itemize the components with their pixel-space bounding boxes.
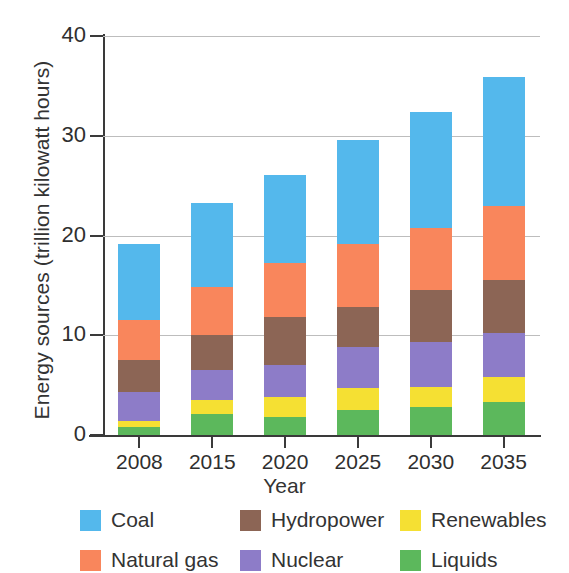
x-tick-mark — [211, 437, 213, 448]
x-tick-mark — [357, 437, 359, 448]
bar-segment-natural-gas — [410, 228, 452, 291]
x-axis-title: Year — [0, 474, 569, 498]
bar-segment-liquids — [264, 417, 306, 435]
stacked-bar-chart: Energy sources (trillion kilowatt hours)… — [0, 0, 569, 573]
y-tick-label: 0 — [38, 421, 86, 447]
legend-label: Natural gas — [111, 548, 218, 572]
bar-segment-coal — [337, 140, 379, 244]
bar-segment-coal — [410, 112, 452, 228]
bar-segment-nuclear — [337, 347, 379, 388]
bar-2020 — [264, 175, 306, 435]
x-tick-label: 2030 — [391, 450, 471, 474]
plot-area — [103, 36, 540, 435]
legend-item-coal[interactable]: Coal — [80, 508, 240, 532]
x-tick-label: 2008 — [99, 450, 179, 474]
bar-segment-renewables — [264, 397, 306, 417]
bar-segment-nuclear — [191, 370, 233, 400]
bar-segment-hydropower — [483, 280, 525, 333]
x-axis-line — [89, 435, 541, 437]
bar-segment-natural-gas — [264, 263, 306, 317]
bar-2035 — [483, 77, 525, 435]
x-tick-label: 2020 — [245, 450, 325, 474]
bar-2008 — [118, 244, 160, 435]
bar-segment-natural-gas — [337, 244, 379, 308]
bar-segment-liquids — [191, 414, 233, 435]
bar-segment-renewables — [191, 400, 233, 414]
legend-swatch-icon — [240, 510, 261, 531]
legend-swatch-icon — [240, 550, 261, 571]
x-tick-label: 2015 — [172, 450, 252, 474]
bar-segment-nuclear — [118, 392, 160, 421]
bar-segment-renewables — [337, 388, 379, 410]
bar-segment-natural-gas — [191, 287, 233, 335]
bar-segment-coal — [264, 175, 306, 264]
legend-swatch-icon — [400, 550, 421, 571]
legend-label: Hydropower — [271, 508, 384, 532]
bar-segment-nuclear — [264, 365, 306, 397]
bar-segment-hydropower — [337, 307, 379, 347]
bar-segment-natural-gas — [483, 206, 525, 281]
legend-label: Renewables — [431, 508, 547, 532]
x-tick-mark — [284, 437, 286, 448]
legend-label: Liquids — [431, 548, 498, 572]
legend-item-renewables[interactable]: Renewables — [400, 508, 550, 532]
legend-item-liquids[interactable]: Liquids — [400, 548, 550, 572]
bar-segment-renewables — [410, 387, 452, 407]
bar-segment-hydropower — [264, 317, 306, 365]
bar-segment-natural-gas — [118, 320, 160, 360]
legend-item-hydropower[interactable]: Hydropower — [240, 508, 400, 532]
legend-label: Nuclear — [271, 548, 343, 572]
y-tick-label: 10 — [38, 321, 86, 347]
y-tick-label: 40 — [38, 22, 86, 48]
bar-segment-liquids — [483, 402, 525, 435]
legend-swatch-icon — [80, 550, 101, 571]
bar-segment-hydropower — [118, 360, 160, 392]
bar-2015 — [191, 203, 233, 435]
legend-item-nuclear[interactable]: Nuclear — [240, 548, 400, 572]
x-tick-mark — [138, 437, 140, 448]
bar-segment-nuclear — [410, 342, 452, 387]
legend-item-natural-gas[interactable]: Natural gas — [80, 548, 240, 572]
bar-segment-liquids — [118, 427, 160, 435]
bar-segment-liquids — [337, 410, 379, 435]
bar-segment-renewables — [483, 377, 525, 402]
bar-2025 — [337, 140, 379, 435]
bar-segment-coal — [118, 244, 160, 321]
x-tick-label: 2035 — [464, 450, 544, 474]
bar-segment-hydropower — [191, 335, 233, 370]
y-tick-mark — [90, 434, 103, 436]
y-tick-mark — [90, 135, 103, 137]
bar-segment-nuclear — [483, 333, 525, 377]
legend-swatch-icon — [400, 510, 421, 531]
bar-segment-liquids — [410, 407, 452, 435]
x-tick-label: 2025 — [318, 450, 398, 474]
y-tick-mark — [90, 35, 103, 37]
x-tick-mark — [430, 437, 432, 448]
legend-label: Coal — [111, 508, 154, 532]
y-tick-label: 20 — [38, 222, 86, 248]
y-tick-label: 30 — [38, 122, 86, 148]
bar-2030 — [410, 112, 452, 435]
chart-legend: CoalHydropowerRenewablesNatural gasNucle… — [80, 500, 550, 573]
bar-segment-hydropower — [410, 290, 452, 342]
y-tick-mark — [90, 235, 103, 237]
y-tick-mark — [90, 334, 103, 336]
legend-swatch-icon — [80, 510, 101, 531]
bar-segment-coal — [483, 77, 525, 206]
bar-segment-coal — [191, 203, 233, 288]
x-tick-mark — [503, 437, 505, 448]
